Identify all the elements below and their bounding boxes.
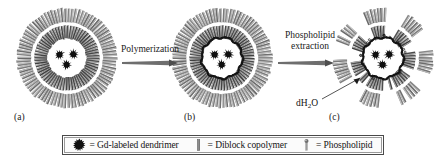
dh2o-subscript: 2 [308, 102, 312, 110]
arrow-label-phospholipid-extraction: Phospholipid extraction [268, 30, 352, 52]
arrow-phospholipid-extraction [278, 60, 334, 67]
vesicle-c [333, 8, 434, 108]
legend-label-phospholipid: = Phospholipid [316, 140, 372, 150]
phospholipid-icon [300, 138, 313, 152]
legend-label-copolymer: = Diblock copolymer [208, 140, 287, 150]
legend-entry-dendrimer: = Gd-labeled dendrimer [73, 138, 178, 152]
arrow-label-polymerization: Polymerization [112, 44, 188, 55]
arrow-polymerization [122, 60, 178, 67]
dh2o-annotation-label: dH2O [296, 98, 318, 108]
dh2o-suffix: O [311, 98, 318, 108]
vesicle-b [172, 8, 272, 108]
legend-label-dendrimer: = Gd-labeled dendrimer [89, 140, 178, 150]
arrow-label-line-2: extraction [291, 41, 329, 51]
vesicle-a [16, 8, 117, 108]
legend-box: = Gd-labeled dendrimer = Diblock copolym… [62, 135, 384, 155]
arrow-label-line-1: Phospholipid [285, 30, 335, 40]
legend-entry-copolymer: = Diblock copolymer [192, 138, 287, 152]
panel-label-a: (a) [14, 112, 25, 122]
dendrimer-star-icon [73, 138, 86, 152]
dh2o-prefix: dH [296, 98, 308, 108]
vesicle-transformation-figure: Polymerization Phospholipid extraction (… [0, 0, 447, 165]
legend-entry-phospholipid: = Phospholipid [300, 138, 372, 152]
diblock-copolymer-bar-icon [192, 138, 205, 152]
vesicles-group [16, 8, 433, 109]
panel-label-c: (c) [329, 112, 340, 122]
panel-label-b: (b) [184, 112, 195, 122]
